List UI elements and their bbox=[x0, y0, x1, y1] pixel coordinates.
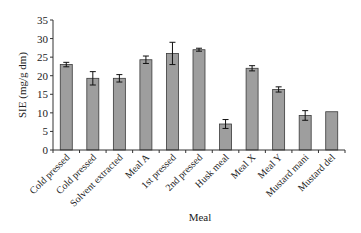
bar bbox=[87, 78, 99, 150]
y-tick-label: 35 bbox=[37, 14, 49, 26]
x-tick-label: Meal X bbox=[228, 151, 258, 181]
y-tick-label: 30 bbox=[37, 33, 49, 45]
y-tick-label: 15 bbox=[37, 88, 49, 100]
bar bbox=[246, 68, 258, 150]
x-axis-label: Meal bbox=[189, 211, 212, 223]
bar bbox=[60, 65, 72, 150]
y-tick-label: 5 bbox=[43, 125, 49, 137]
y-tick-label: 0 bbox=[43, 144, 49, 156]
y-tick-label: 20 bbox=[37, 70, 49, 82]
y-tick-label: 25 bbox=[37, 51, 49, 63]
bar-chart: 05101520253035 Cold pressedCold pressedS… bbox=[0, 0, 361, 233]
bar bbox=[140, 60, 152, 150]
y-axis: 05101520253035 bbox=[37, 14, 53, 156]
y-tick-label: 10 bbox=[37, 107, 49, 119]
bar bbox=[113, 78, 125, 150]
bar bbox=[166, 53, 178, 150]
bar bbox=[193, 50, 205, 150]
x-axis: Cold pressedCold pressedSolvent extracte… bbox=[27, 150, 345, 209]
y-axis-label: SIE (mg/g dm) bbox=[16, 52, 29, 118]
bars bbox=[60, 42, 337, 150]
bar bbox=[326, 112, 338, 150]
bar bbox=[273, 89, 285, 150]
